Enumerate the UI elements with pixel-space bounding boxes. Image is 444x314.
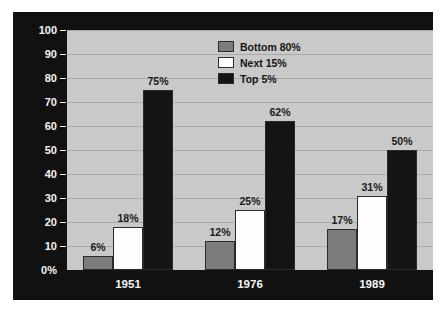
y-axis-tick-mark bbox=[60, 222, 66, 223]
bar bbox=[387, 150, 417, 270]
y-axis-title: Concentration of Dollars Given (percent) bbox=[0, 0, 7, 18]
bar-chart-figure: Concentration of Dollars Given (percent)… bbox=[0, 0, 444, 314]
bar bbox=[143, 90, 173, 270]
gridline bbox=[67, 30, 433, 31]
bar bbox=[83, 256, 113, 270]
bar-value-label: 75% bbox=[147, 76, 168, 87]
y-axis-tick-mark bbox=[60, 150, 66, 151]
legend-swatch-icon bbox=[218, 73, 234, 84]
y-axis-tick-mark bbox=[60, 174, 66, 175]
x-axis-tick-label: 1976 bbox=[237, 278, 263, 291]
bar bbox=[205, 241, 235, 270]
chart-frame: Concentration of Dollars Given (percent)… bbox=[13, 12, 433, 300]
x-axis-tick-label: 1951 bbox=[115, 278, 141, 291]
bar bbox=[235, 210, 265, 270]
y-axis-tick-label: 100 bbox=[11, 25, 57, 36]
bar-value-label: 62% bbox=[269, 107, 290, 118]
x-axis-tick-label: 1989 bbox=[359, 278, 385, 291]
y-axis-tick-mark bbox=[60, 78, 66, 79]
legend-item: Bottom 80% bbox=[218, 39, 338, 54]
y-axis-tick-label: 90 bbox=[11, 49, 57, 60]
y-axis-tick-label: 40 bbox=[11, 169, 57, 180]
y-axis-tick-mark bbox=[60, 102, 66, 103]
gridline bbox=[67, 102, 433, 103]
legend-label: Bottom 80% bbox=[240, 41, 301, 53]
legend-label: Top 5% bbox=[240, 73, 277, 85]
gridline bbox=[67, 150, 433, 151]
bar bbox=[357, 196, 387, 270]
y-axis-tick-mark bbox=[60, 126, 66, 127]
y-axis-tick-mark bbox=[60, 30, 66, 31]
y-axis-tick-mark bbox=[60, 246, 66, 247]
y-axis-tick-label: 70 bbox=[11, 97, 57, 108]
legend-item: Next 15% bbox=[218, 55, 338, 70]
y-axis-title-label: Concentration of Dollars Given (percent) bbox=[0, 18, 2, 258]
bar-value-label: 12% bbox=[209, 227, 230, 238]
legend-swatch-icon bbox=[218, 57, 234, 68]
bar bbox=[265, 121, 295, 270]
y-axis-tick-label: 20 bbox=[11, 217, 57, 228]
legend-swatch-icon bbox=[218, 41, 234, 52]
gridline bbox=[67, 126, 433, 127]
y-axis-tick-mark bbox=[60, 54, 66, 55]
legend-label: Next 15% bbox=[240, 57, 287, 69]
y-axis-tick-label: 50 bbox=[11, 145, 57, 156]
y-axis-tick-label: 0% bbox=[11, 265, 57, 276]
bar bbox=[327, 229, 357, 270]
bar-value-label: 6% bbox=[90, 242, 105, 253]
y-axis-tick-label: 10 bbox=[11, 241, 57, 252]
y-axis-tick-label: 30 bbox=[11, 193, 57, 204]
y-axis-tick-label: 60 bbox=[11, 121, 57, 132]
bar-value-label: 31% bbox=[361, 182, 382, 193]
gridline bbox=[67, 174, 433, 175]
chart-legend: Bottom 80%Next 15%Top 5% bbox=[218, 39, 338, 87]
y-axis-tick-label: 80 bbox=[11, 73, 57, 84]
bar bbox=[113, 227, 143, 270]
bar-value-label: 17% bbox=[331, 215, 352, 226]
y-axis-tick-mark bbox=[60, 198, 66, 199]
legend-item: Top 5% bbox=[218, 71, 338, 86]
bar-value-label: 25% bbox=[239, 196, 260, 207]
bar-value-label: 18% bbox=[117, 213, 138, 224]
bar-value-label: 50% bbox=[391, 136, 412, 147]
